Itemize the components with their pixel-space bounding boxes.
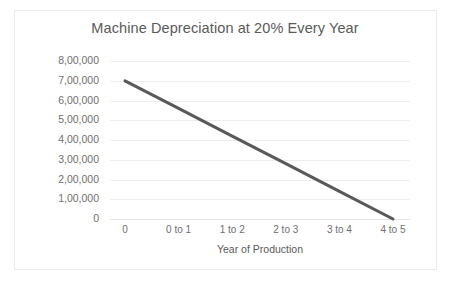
figure-caption bbox=[18, 279, 438, 295]
data-series-line bbox=[0, 0, 450, 295]
series-cost-of-machine bbox=[125, 81, 393, 219]
